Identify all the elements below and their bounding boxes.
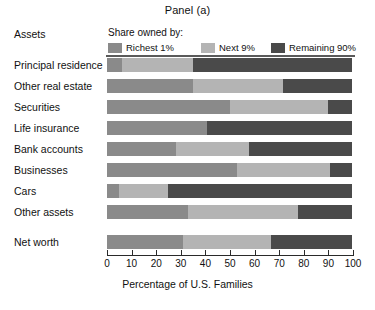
bar-segment-0: [107, 121, 207, 135]
axis-tick: [107, 250, 108, 256]
axis-tick-label: 60: [249, 258, 260, 269]
bar-segment-0: [107, 235, 183, 249]
axis-tick: [205, 250, 206, 256]
axis-tick: [181, 250, 182, 256]
axis-tick-label: 70: [274, 258, 285, 269]
axis-tick-label: 90: [323, 258, 334, 269]
bar-segment-1: [188, 205, 298, 219]
bar-row: [107, 163, 352, 177]
axis-tick: [279, 250, 280, 256]
bar-segment-1: [176, 142, 250, 156]
legend-swatch-icon-0: [108, 43, 122, 53]
assets-column-heading: Assets: [14, 28, 46, 40]
x-axis-label: Percentage of U.S. Families: [0, 278, 375, 290]
bar-segment-0: [107, 100, 230, 114]
bar-segment-1: [193, 79, 284, 93]
category-label: Other real estate: [14, 79, 92, 93]
axis-tick-label: 30: [175, 258, 186, 269]
chart-panel-a: Panel (a) Assets Share owned by: Richest…: [0, 0, 375, 310]
bar-segment-0: [107, 205, 188, 219]
axis-tick: [156, 250, 157, 256]
legend-swatch-icon-2: [271, 43, 285, 53]
legend-swatch-icon-1: [201, 43, 215, 53]
bar-segment-1: [119, 184, 168, 198]
axis-tick: [255, 250, 256, 256]
axis-tick-label: 40: [200, 258, 211, 269]
axis-tick: [304, 250, 305, 256]
category-label: Net worth: [14, 235, 59, 249]
legend-entry-2: Remaining 90%: [271, 41, 356, 54]
category-label: Bank accounts: [14, 142, 83, 156]
bar-row: [107, 58, 352, 72]
bar-row: [107, 235, 352, 249]
bar-segment-2: [207, 121, 352, 135]
axis-tick: [353, 250, 354, 256]
category-label: Securities: [14, 100, 60, 114]
bar-row: [107, 184, 352, 198]
bar-segment-1: [183, 235, 271, 249]
bar-row: [107, 121, 352, 135]
category-label: Cars: [14, 184, 36, 198]
bar-segment-0: [107, 142, 176, 156]
bar-row: [107, 205, 352, 219]
bar-row: [107, 100, 352, 114]
bar-segment-2: [168, 184, 352, 198]
category-label: Businesses: [14, 163, 68, 177]
axis-tick-label: 0: [104, 258, 110, 269]
page-title: Panel (a): [0, 4, 375, 16]
bar-segment-2: [193, 58, 352, 72]
axis-tick-label: 80: [298, 258, 309, 269]
category-label: Principal residence: [14, 58, 103, 72]
bar-segment-2: [298, 205, 352, 219]
legend-label-0: Richest 1%: [126, 42, 174, 53]
bar-segment-2: [328, 100, 353, 114]
bar-segment-1: [237, 163, 330, 177]
axis-tick-label: 20: [151, 258, 162, 269]
legend-entry-1: Next 9%: [201, 41, 255, 54]
bar-row: [107, 142, 352, 156]
bar-segment-0: [107, 58, 122, 72]
legend-divider: [106, 55, 355, 57]
bar-segment-2: [283, 79, 352, 93]
legend-label-1: Next 9%: [219, 42, 255, 53]
axis-tick-label: 10: [126, 258, 137, 269]
axis-tick-label: 100: [345, 258, 362, 269]
axis-tick-label: 50: [224, 258, 235, 269]
axis-tick: [328, 250, 329, 256]
plot-area: [107, 58, 352, 255]
bar-segment-1: [230, 100, 328, 114]
bar-segment-0: [107, 79, 193, 93]
bar-segment-0: [107, 184, 119, 198]
chart-legend: Richest 1%Next 9%Remaining 90%: [108, 41, 360, 54]
legend-title: Share owned by:: [108, 27, 183, 38]
bar-segment-2: [249, 142, 352, 156]
legend-label-2: Remaining 90%: [289, 42, 356, 53]
category-label: Other assets: [14, 205, 74, 219]
bar-segment-2: [271, 235, 352, 249]
axis-tick: [230, 250, 231, 256]
bar-segment-2: [330, 163, 352, 177]
bar-segment-1: [122, 58, 193, 72]
axis-tick: [132, 250, 133, 256]
bar-segment-0: [107, 163, 237, 177]
category-label: Life insurance: [14, 121, 79, 135]
bar-row: [107, 79, 352, 93]
legend-entry-0: Richest 1%: [108, 41, 174, 54]
